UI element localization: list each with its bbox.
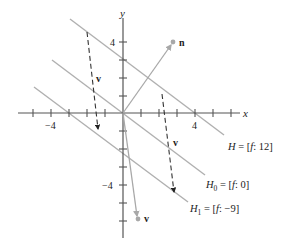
v-label: v xyxy=(144,213,149,224)
v-endpoint-dot xyxy=(136,217,141,222)
y-axis-label: y xyxy=(119,7,125,19)
y-tick-label-neg4: −4 xyxy=(102,180,113,191)
hyperplane-diagram: x y −4 4 4 −4 n v v v H = [f: 12] H0 = [… xyxy=(0,0,289,245)
hyperplane-H-label: H = [f: 12] xyxy=(227,141,273,152)
x-tick-label-neg4: −4 xyxy=(45,120,56,131)
x-axis xyxy=(18,109,240,117)
translated-v-right-label: v xyxy=(173,137,178,148)
translated-v-left-label: v xyxy=(96,73,101,84)
hyperplane-H0-label: H0 = [f: 0] xyxy=(205,179,249,193)
n-label: n xyxy=(179,37,185,48)
x-axis-label: x xyxy=(242,107,248,119)
vector-v xyxy=(123,113,137,216)
y-tick-label-4: 4 xyxy=(110,37,115,48)
hyperplane-H-line xyxy=(70,19,224,135)
y-axis xyxy=(119,18,127,238)
x-tick-label-4: 4 xyxy=(192,120,197,131)
n-endpoint-dot xyxy=(171,40,176,45)
normal-vector-n xyxy=(123,45,171,113)
hyperplane-H1-label: H1 = [f: −9] xyxy=(189,203,239,217)
